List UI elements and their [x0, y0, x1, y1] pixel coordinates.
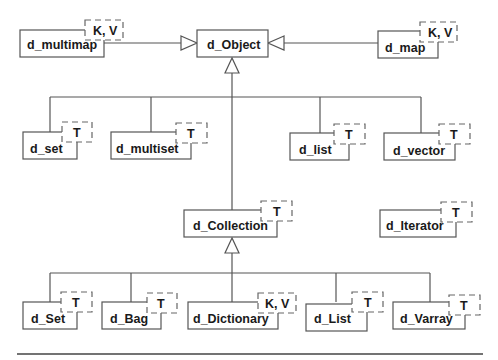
- template-params: T: [72, 296, 80, 310]
- inheritance-arrow-icon: [225, 58, 239, 73]
- class-name: d_list: [299, 143, 332, 157]
- class-name: d_set: [30, 142, 63, 156]
- class-name: d_Object: [207, 38, 261, 52]
- template-params: K, V: [428, 26, 453, 40]
- class-hierarchy-diagram: d_multimap K, V d_Object d_map K, V d_se…: [0, 0, 498, 360]
- template-params: K, V: [265, 297, 290, 311]
- class-name: d_Dictionary: [193, 312, 269, 326]
- class-d-multiset[interactable]: d_multiset T: [111, 123, 207, 159]
- template-params: T: [452, 206, 460, 220]
- class-d-collection[interactable]: d_Collection T: [184, 201, 292, 237]
- class-name: d_Set: [31, 312, 66, 326]
- class-name: d_multimap: [27, 38, 98, 52]
- inheritance-arrow-icon: [181, 36, 197, 50]
- template-params: T: [345, 128, 353, 142]
- template-params: T: [364, 296, 372, 310]
- class-name: d_Bag: [110, 312, 148, 326]
- template-params: K, V: [93, 24, 118, 38]
- class-name: d_multiset: [116, 142, 179, 156]
- class-d-object[interactable]: d_Object: [197, 30, 268, 57]
- class-name: d_List: [314, 312, 352, 326]
- template-params: T: [73, 126, 81, 140]
- class-name: d_Collection: [193, 219, 268, 233]
- class-d-list-lower[interactable]: d_list T: [290, 124, 365, 160]
- class-d-varray[interactable]: d_Varray T: [393, 295, 480, 329]
- class-d-set-lower[interactable]: d_set T: [23, 122, 92, 159]
- class-name: d_map: [385, 41, 426, 55]
- class-d-list-upper[interactable]: d_List T: [306, 292, 383, 331]
- class-d-set-upper[interactable]: d_Set T: [23, 292, 92, 329]
- template-params: T: [460, 299, 468, 313]
- class-name: d_vector: [393, 144, 445, 158]
- template-params: T: [273, 205, 281, 219]
- class-name: d_Varray: [400, 312, 453, 326]
- inheritance-arrow-icon: [225, 238, 239, 253]
- template-params: T: [450, 128, 458, 142]
- class-d-dictionary[interactable]: d_Dictionary K, V: [188, 293, 296, 329]
- class-d-vector[interactable]: d_vector T: [384, 124, 470, 160]
- template-params: T: [187, 127, 195, 141]
- inheritance-arrow-icon: [268, 36, 284, 50]
- class-d-multimap[interactable]: d_multimap K, V: [20, 20, 123, 57]
- class-d-iterator[interactable]: d_Iterator T: [380, 202, 472, 237]
- template-params: T: [157, 297, 165, 311]
- class-name: d_Iterator: [386, 219, 444, 233]
- class-d-bag[interactable]: d_Bag T: [102, 293, 177, 329]
- class-d-map[interactable]: d_map K, V: [378, 22, 457, 58]
